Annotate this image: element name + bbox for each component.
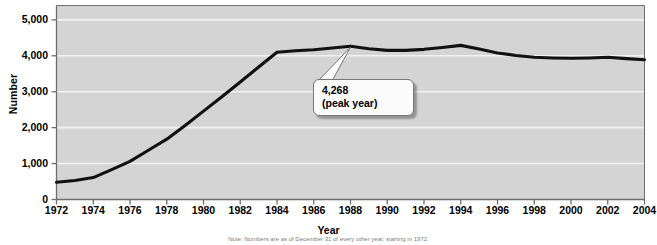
y-axis-tick-label: 1,000 [2, 158, 48, 169]
chart-footnote: Note: Numbers are as of December 31 of e… [0, 236, 657, 242]
y-axis-title: Number [7, 64, 19, 124]
y-axis-ticks [52, 20, 57, 200]
x-axis-tick-label: 2004 [623, 205, 657, 216]
callout-value-label: 4,268 [322, 84, 406, 97]
y-axis-tick-label: 0 [2, 194, 48, 205]
line-chart-figure: 01,0002,0003,0004,0005,000 1972197419761… [0, 0, 657, 245]
x-axis-title: Year [0, 224, 657, 236]
x-axis-tick-labels: 1972197419761978198019821984198619881990… [0, 205, 657, 221]
y-axis-tick-label: 4,000 [2, 50, 48, 61]
callout-sub-label: (peak year) [322, 97, 406, 110]
peak-year-callout: 4,268 (peak year) [313, 79, 414, 116]
y-axis-tick-label: 5,000 [2, 14, 48, 25]
